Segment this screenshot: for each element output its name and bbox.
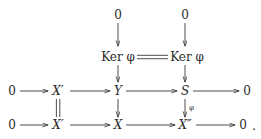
node-ker-phi-mid: Ker φ	[101, 51, 135, 63]
node-y-row1: Y	[114, 85, 122, 97]
node-zero-row1-left: 0	[8, 85, 16, 97]
edge-label-phi: φ	[189, 105, 194, 112]
node-x-row2: X	[114, 119, 123, 131]
node-x-double-prime-row2: X″	[178, 119, 191, 131]
node-zero-row2-right: 0	[239, 119, 247, 131]
node-zero-row2-left: 0	[8, 119, 16, 131]
node-x-prime-row1: X′	[52, 85, 63, 97]
terminal-period: .	[252, 120, 256, 132]
commutative-diagram: 0 0 Ker φ Ker φ 0 X′ Y S 0 0 X′ X X″ 0 φ…	[0, 0, 261, 139]
diagram-arrows	[0, 0, 261, 139]
node-zero-row1-right: 0	[243, 85, 251, 97]
node-zero-top-mid: 0	[114, 9, 122, 21]
node-x-prime-row2: X′	[52, 119, 63, 131]
node-ker-phi-right: Ker φ	[170, 51, 204, 63]
node-s-row1: S	[181, 85, 189, 97]
node-zero-top-right: 0	[181, 9, 189, 21]
